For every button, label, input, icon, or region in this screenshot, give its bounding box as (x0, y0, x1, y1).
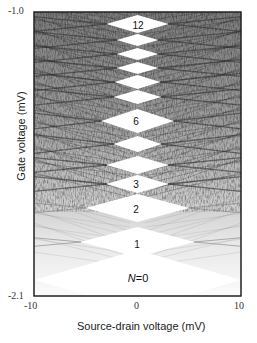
excitation-line (241, 266, 256, 280)
diamond-label-n0: N=0 (128, 272, 149, 284)
y-axis-title: Gate voltage (mV) (15, 86, 27, 186)
diamond-label-2: 2 (133, 204, 139, 215)
diamond-label-1: 1 (134, 239, 140, 250)
excitation-line (18, 0, 130, 12)
excitation-line (146, 0, 257, 12)
excitation-line (241, 280, 256, 294)
x-tick-mid: 0 (134, 300, 139, 311)
diamond-label-12: 12 (132, 20, 143, 31)
x-tick-left: -10 (24, 300, 37, 311)
y-tick-top: -1.0 (8, 5, 24, 16)
diamond-label-6: 6 (133, 116, 139, 127)
n-variable: N (128, 272, 136, 284)
x-axis-title: Source-drain voltage (mV) (77, 320, 205, 332)
plot-area (0, 0, 256, 343)
n-value: =0 (136, 272, 149, 284)
diamond-label-3: 3 (133, 179, 139, 190)
y-tick-bottom: -2.1 (8, 290, 24, 301)
coulomb-diamond-figure: -1.0 -2.1 -10 0 10 Source-drain voltage … (0, 0, 256, 343)
excitation-line (0, 266, 34, 280)
x-tick-right: 10 (234, 300, 244, 311)
